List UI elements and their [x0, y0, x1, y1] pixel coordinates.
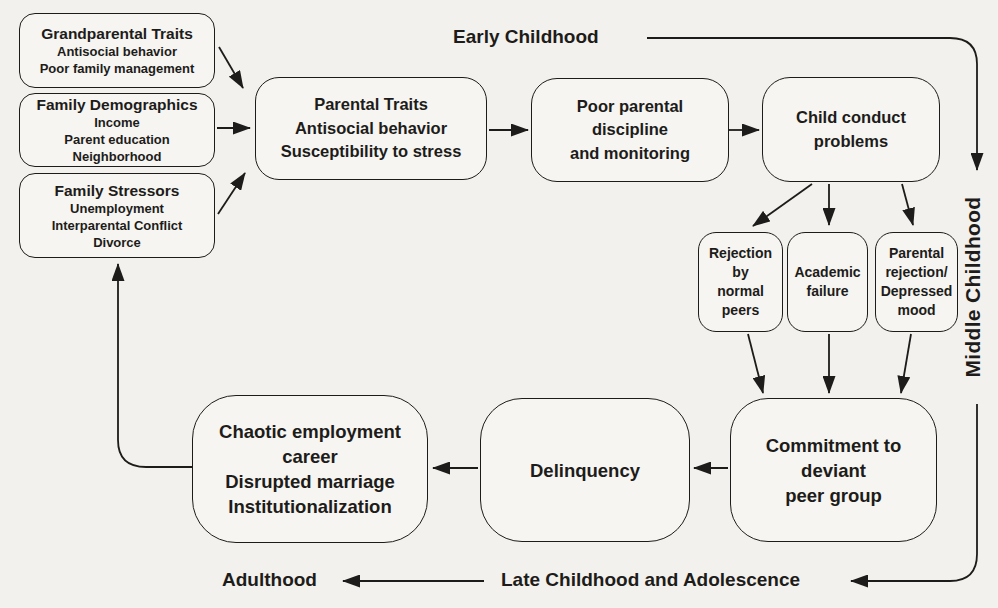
box-line: Disrupted marriage [225, 469, 395, 494]
box-delinquency: Delinquency [480, 398, 690, 542]
box-line: Commitment to [766, 433, 902, 458]
box-line: peers [722, 301, 759, 320]
box-poor-parental-discipline: Poor parental discipline and monitoring [531, 78, 729, 182]
box-line: deviant [801, 458, 866, 483]
box-line: Susceptibility to stress [281, 140, 462, 164]
box-line: Delinquency [530, 458, 640, 483]
box-line: Parent education [64, 131, 169, 148]
box-line: normal [717, 282, 764, 301]
box-line: by [732, 263, 748, 282]
label-adulthood: Adulthood [222, 569, 317, 591]
box-line: Income [94, 114, 140, 131]
box-grandparental-traits: Grandparental Traits Antisocial behavior… [19, 13, 215, 88]
box-line: and monitoring [570, 142, 690, 166]
box-line: Divorce [93, 234, 141, 251]
box-commitment-deviant-peer-group: Commitment to deviant peer group [730, 398, 937, 542]
arrow-stressors-to-parental-traits [218, 173, 245, 214]
box-line: Antisocial behavior [295, 117, 447, 141]
box-line: Neighborhood [73, 148, 162, 165]
box-line: Rejection [709, 244, 772, 263]
box-line: Institutionalization [228, 494, 391, 519]
box-title: Family Demographics [36, 95, 197, 114]
box-line: Depressed [881, 282, 953, 301]
box-line: Child conduct [796, 106, 906, 130]
box-line: Unemployment [70, 200, 164, 217]
box-line: Antisocial behavior [57, 43, 177, 60]
box-line: Poor family management [40, 60, 195, 77]
box-academic-failure: Academic failure [787, 232, 868, 332]
box-line: discipline [592, 118, 668, 142]
box-line: rejection/ [885, 263, 947, 282]
box-family-stressors: Family Stressors Unemployment Interparen… [19, 173, 215, 258]
box-chaotic-employment: Chaotic employment career Disrupted marr… [192, 395, 428, 543]
box-line: Interparental Conflict [52, 217, 183, 234]
box-line: Parental [889, 244, 944, 263]
box-line: failure [806, 282, 848, 301]
label-middle-childhood: Middle Childhood [961, 178, 991, 396]
box-title: Family Stressors [55, 181, 180, 200]
label-late-childhood-and-adolescence: Late Childhood and Adolescence [501, 569, 800, 591]
box-child-conduct-problems: Child conduct problems [762, 77, 940, 182]
box-line: peer group [785, 483, 882, 508]
box-title: Grandparental Traits [41, 24, 193, 43]
label-early-childhood: Early Childhood [453, 26, 599, 48]
box-line: Poor parental [577, 95, 683, 119]
arrow-conduct-to-peer-rejection [753, 184, 812, 226]
arrow-grandparental-to-parental-traits [219, 47, 243, 88]
box-line: mood [897, 301, 935, 320]
arrow-parental-rejection-to-commitment [901, 334, 911, 393]
developmental-pathway-diagram: Grandparental Traits Antisocial behavior… [0, 0, 998, 608]
box-line: Chaotic employment [219, 419, 401, 444]
arrow-peer-rejection-to-commitment [748, 334, 763, 393]
box-rejection-by-normal-peers: Rejection by normal peers [698, 232, 783, 332]
box-line: Parental Traits [314, 93, 428, 117]
box-parental-rejection-depressed-mood: Parental rejection/ Depressed mood [875, 232, 958, 332]
box-line: career [282, 444, 338, 469]
box-family-demographics: Family Demographics Income Parent educat… [19, 93, 215, 167]
box-line: Academic [794, 263, 860, 282]
arrow-conduct-to-parental-rejection [902, 184, 913, 225]
box-parental-traits: Parental Traits Antisocial behavior Susc… [255, 77, 487, 180]
arrow-chaotic-feedback-to-stressors [118, 264, 192, 467]
box-line: problems [814, 130, 888, 154]
